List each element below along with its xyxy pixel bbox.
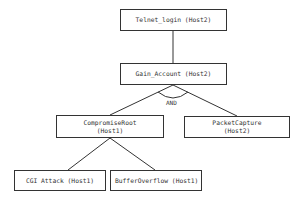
edge-gain-packet bbox=[173, 85, 237, 116]
node-gain-account: Gain_Account (Host2) bbox=[120, 63, 227, 85]
node-host: (Host2) bbox=[224, 127, 251, 135]
node-host: (Host1) bbox=[97, 127, 124, 135]
node-telnet-login: Telnet_login (Host2) bbox=[120, 9, 227, 31]
node-compromise-root: CompromiseRoot (Host1) bbox=[56, 115, 164, 138]
node-packet-capture: PacketCapture (Host2) bbox=[184, 116, 290, 138]
node-label: Telnet_login (Host2) bbox=[136, 16, 212, 24]
edge-compromise-buffer bbox=[110, 138, 155, 170]
node-label: PacketCapture bbox=[212, 119, 261, 127]
node-buffer-overflow: BufferOverflow (Host1) bbox=[110, 170, 202, 191]
node-label: Gain_Account (Host2) bbox=[136, 70, 212, 78]
node-label: CGI Attack (Host1) bbox=[26, 177, 94, 185]
node-label: CompromiseRoot bbox=[83, 119, 136, 127]
and-arc-icon bbox=[158, 92, 188, 98]
node-cgi-attack: CGI Attack (Host1) bbox=[14, 170, 106, 191]
edge-compromise-cgi bbox=[68, 138, 110, 170]
node-label: BufferOverflow (Host1) bbox=[115, 177, 198, 185]
and-label: AND bbox=[166, 99, 177, 106]
edge-gain-compromise bbox=[110, 85, 173, 115]
